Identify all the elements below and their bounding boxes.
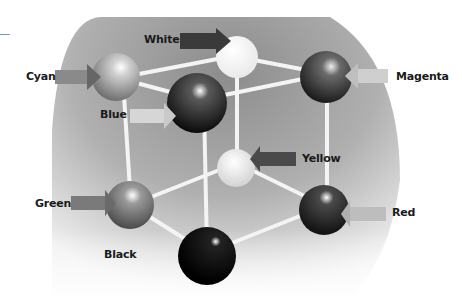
sphere-black	[178, 227, 236, 285]
sphere-yellow	[217, 149, 255, 187]
label-magenta: Magenta	[396, 70, 449, 83]
label-yellow: Yellow	[302, 152, 340, 165]
sphere-red	[299, 185, 349, 235]
sphere-blue	[167, 73, 227, 133]
label-black: Black	[104, 248, 136, 261]
cube-graphic	[0, 0, 462, 298]
label-red: Red	[392, 206, 415, 219]
label-blue: Blue	[100, 108, 127, 121]
label-cyan: Cyan	[26, 70, 56, 83]
color-cube-diagram: White Cyan Magenta Blue Yellow Green Red…	[0, 0, 462, 298]
sphere-magenta	[300, 51, 352, 103]
label-white: White	[144, 33, 179, 46]
label-green: Green	[35, 197, 71, 210]
